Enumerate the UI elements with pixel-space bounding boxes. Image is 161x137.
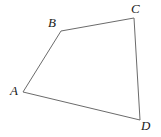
vertex-label-a: A bbox=[10, 84, 18, 97]
vertex-label-c: C bbox=[131, 2, 140, 15]
vertex-label-b: B bbox=[48, 16, 56, 29]
vertex-label-d: D bbox=[141, 119, 150, 132]
quadrilateral-abcd-drawing bbox=[0, 0, 161, 137]
geometry-figure-canvas: A B C D bbox=[0, 0, 161, 137]
quadrilateral-outline-path bbox=[23, 18, 140, 120]
